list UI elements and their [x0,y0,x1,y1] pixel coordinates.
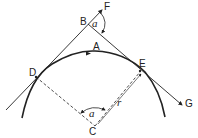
tangent-line-DBF [6,10,102,110]
label-radius: r [117,96,122,108]
label-D: D [29,67,36,78]
arc-direction-arrow-icon [86,52,91,56]
label-C: C [89,126,96,137]
label-G: G [185,98,193,109]
label-F: F [104,1,110,12]
label-angle-C: a [89,107,95,119]
radius-line-CD [36,77,95,126]
label-angle-B: a [92,17,98,29]
curve-diagram: B F A D E G C a a r [0,0,198,138]
point-E-dot [139,70,141,72]
label-E: E [139,58,146,69]
label-B: B [80,16,87,27]
angle-arc-B [100,12,105,33]
label-A: A [93,41,100,52]
